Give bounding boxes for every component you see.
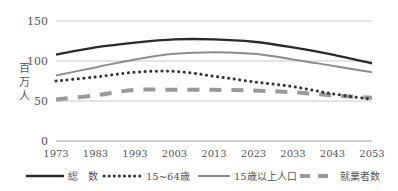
x-tick-label: 1973 xyxy=(43,148,68,159)
y-tick-label: 100 xyxy=(27,55,48,68)
x-tick-label: 1983 xyxy=(83,148,108,159)
y-label-char: 万 xyxy=(19,76,30,89)
legend-item: 15歳以上人口 xyxy=(198,171,297,182)
x-tick-label: 2033 xyxy=(280,148,305,159)
chart-canvas: 050100150 百万人 19731983199320032013202320… xyxy=(0,0,398,191)
x-tick-label: 2013 xyxy=(201,148,226,159)
x-tick-label: 2043 xyxy=(320,148,345,159)
legend-label: 15~64歳 xyxy=(146,171,190,182)
y-label-char: 人 xyxy=(19,90,30,103)
legend: 総 数15~64歳15歳以上人口就業者数 xyxy=(26,170,380,182)
x-axis-ticks: 197319831993200320132023203320432053 xyxy=(43,148,384,159)
legend-label: 総 数 xyxy=(68,170,98,182)
x-tick-label: 2003 xyxy=(162,148,187,159)
legend-item: 総 数 xyxy=(26,170,98,182)
series-lines xyxy=(56,39,372,99)
y-tick-label: 150 xyxy=(27,15,48,28)
legend-item: 就業者数 xyxy=(300,170,380,182)
y-tick-label: 0 xyxy=(41,135,48,148)
x-tick-label: 1993 xyxy=(122,148,147,159)
y-label-char: 百 xyxy=(19,62,30,75)
y-axis-ticks: 050100150 xyxy=(27,15,48,148)
line-chart: 050100150 百万人 19731983199320032013202320… xyxy=(0,0,398,191)
series-line xyxy=(56,52,372,75)
legend-label: 15歳以上人口 xyxy=(234,171,297,182)
x-tick-label: 2023 xyxy=(241,148,266,159)
y-axis-label: 百万人 xyxy=(19,62,30,103)
y-tick-label: 50 xyxy=(34,95,48,108)
x-tick-label: 2053 xyxy=(359,148,384,159)
legend-item: 15~64歳 xyxy=(104,171,190,182)
series-line xyxy=(56,89,372,99)
legend-label: 就業者数 xyxy=(340,170,380,182)
